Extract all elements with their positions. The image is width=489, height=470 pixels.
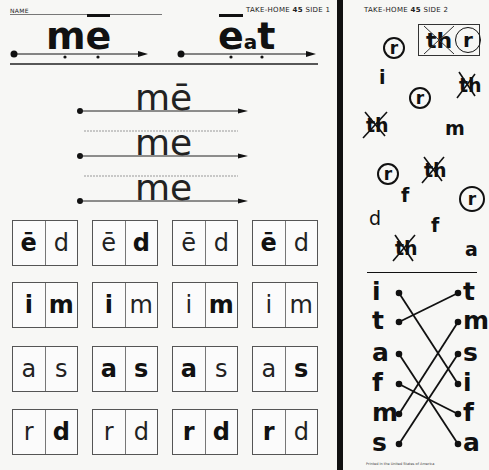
footer-text: Printed in the United States of America [366,462,434,466]
